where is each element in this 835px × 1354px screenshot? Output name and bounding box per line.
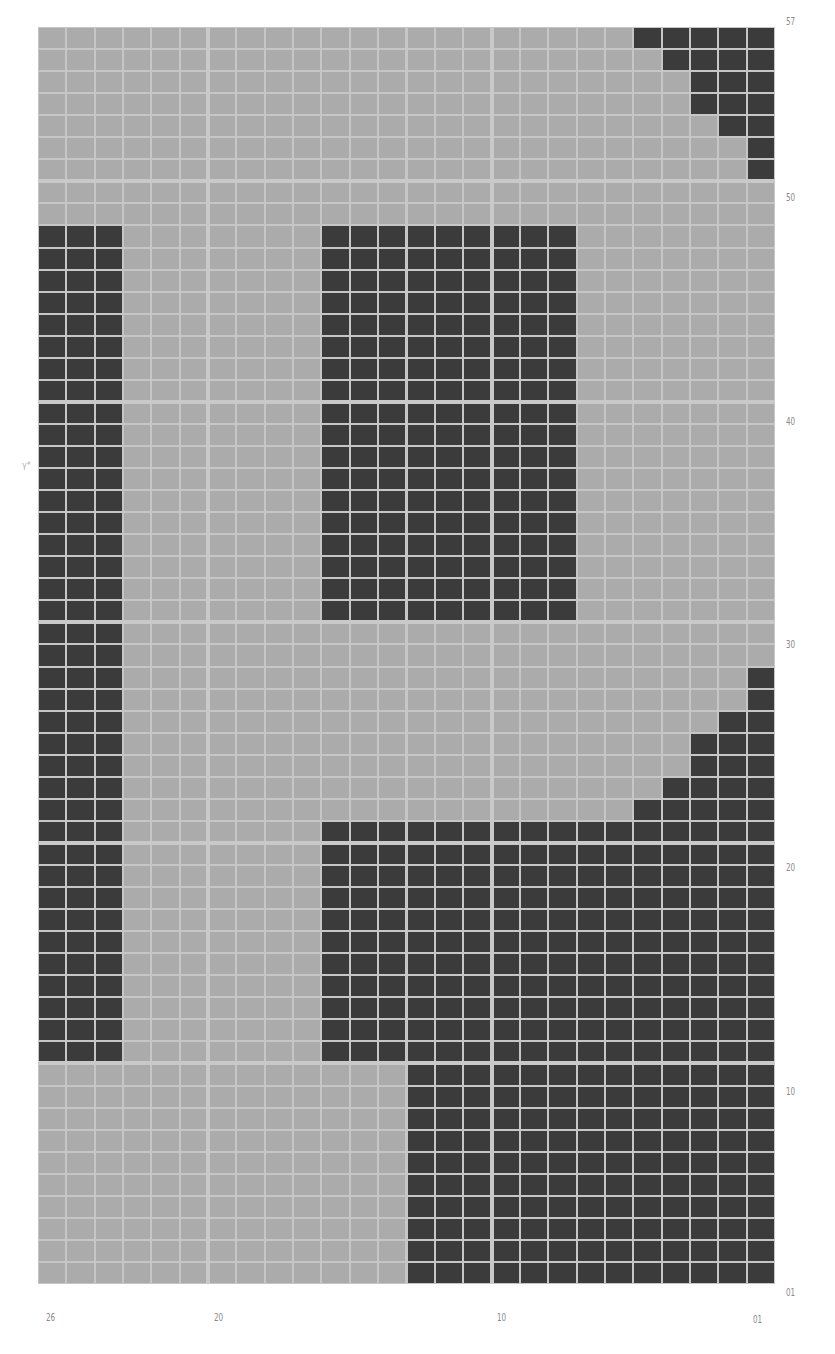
- seat-empty[interactable]: [124, 1131, 150, 1151]
- seat-empty[interactable]: [39, 138, 65, 158]
- seat-filled[interactable]: [351, 932, 377, 952]
- seat-filled[interactable]: [691, 1109, 717, 1129]
- seat-filled[interactable]: [634, 822, 660, 842]
- seat-empty[interactable]: [209, 910, 235, 930]
- seat-empty[interactable]: [237, 998, 263, 1018]
- seat-empty[interactable]: [209, 712, 235, 732]
- seat-filled[interactable]: [408, 557, 434, 577]
- seat-empty[interactable]: [237, 1020, 263, 1040]
- seat-empty[interactable]: [294, 359, 320, 379]
- seat-empty[interactable]: [748, 226, 774, 246]
- seat-empty[interactable]: [464, 690, 490, 710]
- seat-filled[interactable]: [748, 94, 774, 114]
- seat-empty[interactable]: [521, 182, 547, 202]
- seat-filled[interactable]: [549, 844, 575, 864]
- seat-empty[interactable]: [294, 734, 320, 754]
- seat-empty[interactable]: [266, 601, 292, 621]
- seat-filled[interactable]: [521, 1153, 547, 1173]
- seat-empty[interactable]: [549, 138, 575, 158]
- seat-empty[interactable]: [379, 1064, 405, 1084]
- seat-empty[interactable]: [152, 954, 178, 974]
- seat-filled[interactable]: [379, 403, 405, 423]
- seat-filled[interactable]: [322, 1020, 348, 1040]
- seat-empty[interactable]: [521, 800, 547, 820]
- seat-empty[interactable]: [408, 645, 434, 665]
- seat-filled[interactable]: [96, 293, 122, 313]
- seat-empty[interactable]: [209, 1175, 235, 1195]
- seat-filled[interactable]: [351, 866, 377, 886]
- seat-filled[interactable]: [408, 1087, 434, 1107]
- seat-empty[interactable]: [181, 932, 207, 952]
- seat-filled[interactable]: [379, 822, 405, 842]
- seat-empty[interactable]: [67, 1087, 93, 1107]
- seat-filled[interactable]: [436, 1241, 462, 1261]
- seat-filled[interactable]: [493, 866, 519, 886]
- seat-empty[interactable]: [719, 403, 745, 423]
- seat-empty[interactable]: [351, 204, 377, 224]
- seat-filled[interactable]: [379, 381, 405, 401]
- seat-filled[interactable]: [549, 888, 575, 908]
- seat-filled[interactable]: [351, 844, 377, 864]
- seat-empty[interactable]: [124, 72, 150, 92]
- seat-filled[interactable]: [464, 535, 490, 555]
- seat-empty[interactable]: [39, 1153, 65, 1173]
- seat-empty[interactable]: [322, 623, 348, 643]
- seat-empty[interactable]: [266, 1153, 292, 1173]
- seat-empty[interactable]: [266, 403, 292, 423]
- seat-empty[interactable]: [521, 28, 547, 48]
- seat-empty[interactable]: [152, 1219, 178, 1239]
- seat-empty[interactable]: [237, 116, 263, 136]
- seat-filled[interactable]: [322, 403, 348, 423]
- seat-filled[interactable]: [408, 998, 434, 1018]
- seat-filled[interactable]: [351, 337, 377, 357]
- seat-filled[interactable]: [549, 1241, 575, 1261]
- seat-filled[interactable]: [379, 425, 405, 445]
- seat-empty[interactable]: [124, 1109, 150, 1129]
- seat-filled[interactable]: [748, 138, 774, 158]
- seat-empty[interactable]: [578, 293, 604, 313]
- seat-empty[interactable]: [408, 72, 434, 92]
- seat-empty[interactable]: [322, 1109, 348, 1129]
- seat-empty[interactable]: [294, 557, 320, 577]
- seat-empty[interactable]: [124, 381, 150, 401]
- seat-empty[interactable]: [606, 690, 632, 710]
- seat-empty[interactable]: [124, 1241, 150, 1261]
- seat-empty[interactable]: [152, 1020, 178, 1040]
- seat-empty[interactable]: [322, 778, 348, 798]
- seat-filled[interactable]: [464, 513, 490, 533]
- seat-empty[interactable]: [663, 579, 689, 599]
- seat-empty[interactable]: [322, 138, 348, 158]
- seat-filled[interactable]: [493, 249, 519, 269]
- seat-filled[interactable]: [493, 1064, 519, 1084]
- seat-empty[interactable]: [237, 844, 263, 864]
- seat-empty[interactable]: [96, 28, 122, 48]
- seat-empty[interactable]: [436, 160, 462, 180]
- seat-filled[interactable]: [549, 866, 575, 886]
- seat-empty[interactable]: [578, 337, 604, 357]
- seat-filled[interactable]: [691, 1087, 717, 1107]
- seat-filled[interactable]: [96, 535, 122, 555]
- seat-empty[interactable]: [124, 425, 150, 445]
- seat-empty[interactable]: [266, 800, 292, 820]
- seat-empty[interactable]: [181, 403, 207, 423]
- seat-filled[interactable]: [748, 866, 774, 886]
- seat-filled[interactable]: [408, 976, 434, 996]
- seat-empty[interactable]: [634, 623, 660, 643]
- seat-empty[interactable]: [294, 315, 320, 335]
- seat-empty[interactable]: [237, 249, 263, 269]
- seat-empty[interactable]: [294, 403, 320, 423]
- seat-empty[interactable]: [379, 778, 405, 798]
- seat-filled[interactable]: [464, 226, 490, 246]
- seat-filled[interactable]: [39, 491, 65, 511]
- seat-empty[interactable]: [521, 712, 547, 732]
- seat-filled[interactable]: [436, 822, 462, 842]
- seat-empty[interactable]: [237, 425, 263, 445]
- seat-empty[interactable]: [266, 1042, 292, 1062]
- seat-empty[interactable]: [379, 182, 405, 202]
- seat-filled[interactable]: [719, 866, 745, 886]
- seat-empty[interactable]: [436, 72, 462, 92]
- seat-filled[interactable]: [96, 645, 122, 665]
- seat-empty[interactable]: [521, 623, 547, 643]
- seat-empty[interactable]: [634, 204, 660, 224]
- seat-filled[interactable]: [634, 932, 660, 952]
